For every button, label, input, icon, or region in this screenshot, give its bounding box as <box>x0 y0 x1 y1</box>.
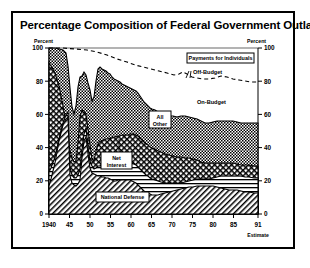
x-tick-80: 80 <box>209 221 217 228</box>
off-budget-label: Off-Budget <box>193 69 222 75</box>
payments-for-individuals-label: Payments for Individuals <box>189 55 253 61</box>
stacked-areas <box>49 48 258 214</box>
x-tick-85: 85 <box>230 221 238 228</box>
x-tick-65: 65 <box>148 221 156 228</box>
y-tick-left-100: 100 <box>32 44 43 51</box>
y-tick-left-40: 40 <box>36 144 44 151</box>
y-axis-label-right: Percent <box>247 38 266 44</box>
x-tick-50: 50 <box>86 221 94 228</box>
x-tick-70: 70 <box>168 221 176 228</box>
net-interest-label-line1: Net <box>112 155 121 161</box>
y-tick-right-60: 60 <box>264 111 272 118</box>
all-other-label-line2: Other <box>153 121 168 127</box>
national-defense-label: National Defense <box>101 194 145 200</box>
screenshot-root: Percentage Composition of Federal Govern… <box>0 0 310 268</box>
annotation-national-defense: National Defense <box>96 192 149 202</box>
y-tick-left-20: 20 <box>36 177 44 184</box>
annotation-all-other: All Other <box>149 111 171 128</box>
x-axis-ticks: 1940 45 50 55 60 65 70 75 80 85 91 <box>42 214 262 228</box>
x-tick-1940: 1940 <box>42 221 57 228</box>
y-axis-ticks-right: 100 80 60 40 20 0 <box>258 44 275 217</box>
y-tick-left-60: 60 <box>36 111 44 118</box>
chart-area: Percent Percent <box>11 11 295 249</box>
annotation-payments-for-individuals: Payments for Individuals <box>187 53 254 63</box>
x-tick-45: 45 <box>66 221 74 228</box>
all-other-label-line1: All <box>157 114 164 120</box>
x-tick-75: 75 <box>189 221 197 228</box>
annotation-on-budget: On-Budget <box>197 99 226 105</box>
x-tick-91: 91 <box>254 221 262 228</box>
y-tick-left-80: 80 <box>36 78 44 85</box>
x-tick-55: 55 <box>107 221 115 228</box>
y-axis-label-left: Percent <box>34 38 53 44</box>
net-interest-label-line2: Interest <box>107 162 127 168</box>
on-budget-label: On-Budget <box>197 99 226 105</box>
outlays-area-chart: Percent Percent <box>11 11 295 249</box>
estimate-footnote: Estimate <box>247 232 269 238</box>
x-tick-60: 60 <box>127 221 135 228</box>
y-tick-right-20: 20 <box>264 177 272 184</box>
y-tick-right-0: 0 <box>264 210 268 217</box>
y-tick-right-80: 80 <box>264 78 272 85</box>
y-tick-left-0: 0 <box>39 210 43 217</box>
y-tick-right-100: 100 <box>264 44 275 51</box>
y-axis-ticks-left: 100 80 60 40 20 0 <box>32 44 49 217</box>
y-tick-right-40: 40 <box>264 144 272 151</box>
